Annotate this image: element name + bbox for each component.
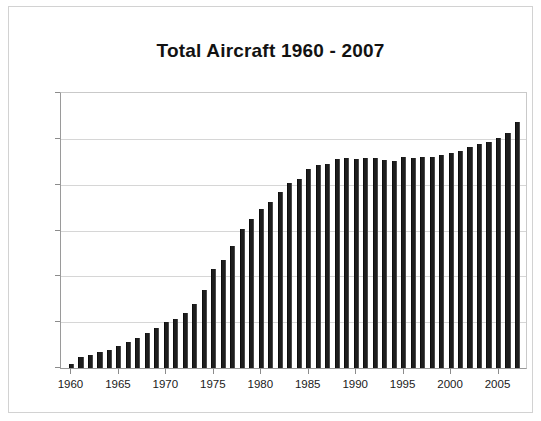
bar [401,157,406,368]
x-axis-tick-label: 1975 [188,378,238,390]
bar [97,352,102,368]
bar [249,219,254,368]
bar [430,157,435,368]
bar [145,333,150,368]
bar [107,350,112,368]
bar [202,290,207,368]
bar [192,304,197,368]
bar [126,342,131,368]
bar [268,202,273,368]
bar [477,144,482,368]
bar [69,364,74,368]
bar [240,229,245,368]
x-axis-tick-label: 1960 [45,378,95,390]
x-axis-tick-label: 2000 [425,378,475,390]
bar [116,346,121,368]
bar [306,169,311,368]
bar [230,246,235,368]
bar [363,158,368,368]
bar [373,158,378,368]
x-axis-tick-label: 1965 [93,378,143,390]
chart-title: Total Aircraft 1960 - 2007 [0,40,541,62]
bar [325,164,330,368]
bar [411,158,416,368]
x-axis-tick-label: 2005 [473,378,523,390]
bar [505,133,510,368]
bar [486,142,491,368]
x-axis-tick-label: 1985 [283,378,333,390]
bar [439,155,444,368]
bar [88,355,93,368]
bar [164,322,169,368]
bar [382,160,387,368]
bar [211,269,216,368]
plot-area [60,92,527,369]
bar [173,319,178,368]
chart-screenshot: Total Aircraft 1960 - 2007 3500030000250… [0,0,541,421]
bar [515,122,520,368]
bar-series [62,93,526,368]
bar [278,192,283,368]
bar [135,338,140,368]
bar [354,159,359,368]
bar [496,138,501,368]
bar [154,328,159,368]
bar [467,147,472,368]
bar [420,157,425,368]
bar [449,153,454,368]
bar [316,165,321,368]
x-axis-tick-label: 1970 [140,378,190,390]
bar [221,260,226,368]
bar [183,313,188,368]
bar [392,161,397,368]
x-axis-tick-label: 1980 [235,378,285,390]
bar [297,179,302,368]
bar [287,183,292,368]
x-axis-tick-label: 1995 [378,378,428,390]
bar [259,209,264,368]
bar [78,357,83,368]
x-axis-tick-label: 1990 [330,378,380,390]
bar [335,159,340,368]
bar [344,158,349,368]
bar [458,151,463,368]
